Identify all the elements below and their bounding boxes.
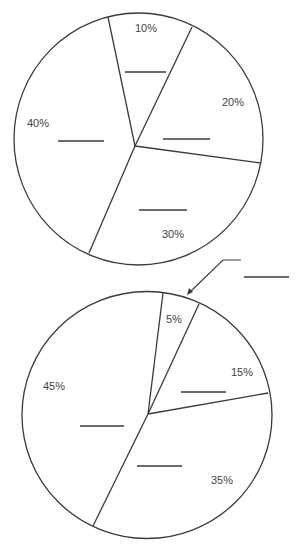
bottom-pie-label-35: 35% <box>211 474 233 486</box>
top-pie-label-40: 40% <box>27 117 49 129</box>
top-pie-label-20: 20% <box>222 96 244 108</box>
bottom-pie-label-45: 45% <box>43 380 65 392</box>
bottom-pie-chart: 5% 15% 35% 45% <box>22 292 272 539</box>
bottom-pie-label-5: 5% <box>166 313 182 325</box>
bottom-pie-label-15: 15% <box>231 366 253 378</box>
top-pie-label-30: 30% <box>162 228 184 240</box>
callout-leader-line <box>190 260 241 292</box>
callout <box>187 260 289 295</box>
pie-charts: 10% 20% 30% 40% 5% 15% 35% 45% <box>0 0 303 560</box>
top-pie-label-10: 10% <box>135 22 157 34</box>
worksheet-canvas: 10% 20% 30% 40% 5% 15% 35% 45% <box>0 0 303 560</box>
top-pie-chart: 10% 20% 30% 40% <box>14 13 263 265</box>
arrowhead-icon <box>187 288 193 295</box>
